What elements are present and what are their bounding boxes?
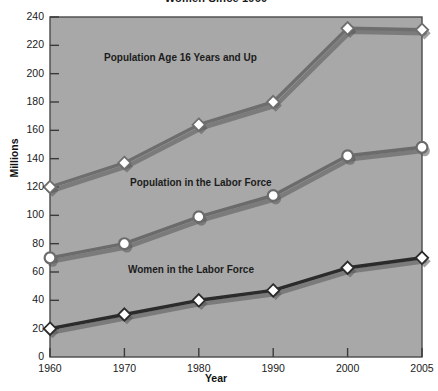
data-point-marker <box>119 238 130 249</box>
x-tick-label: 1980 <box>175 362 223 374</box>
y-tick-label: 80 <box>10 237 44 249</box>
chart-title: Women Since 1960 <box>0 0 432 4</box>
y-tick-label: 100 <box>10 208 44 220</box>
y-tick-label: 160 <box>10 123 44 135</box>
y-tick-label: 140 <box>10 152 44 164</box>
y-tick-label: 60 <box>10 265 44 277</box>
y-tick-label: 200 <box>10 67 44 79</box>
x-tick-label: 2005 <box>398 362 438 374</box>
data-point-marker <box>417 142 428 153</box>
data-point-marker <box>342 150 353 161</box>
data-point-marker <box>268 190 279 201</box>
x-tick-label: 2000 <box>324 362 372 374</box>
data-point-marker <box>45 252 56 263</box>
y-tick-label: 240 <box>10 10 44 22</box>
y-tick-label: 220 <box>10 38 44 50</box>
series-label: Population Age 16 Years and Up <box>104 52 257 63</box>
y-tick-label: 180 <box>10 95 44 107</box>
series-label: Population in the Labor Force <box>130 177 272 188</box>
y-tick-label: 120 <box>10 180 44 192</box>
data-point-marker <box>193 211 204 222</box>
y-tick-label: 40 <box>10 293 44 305</box>
x-tick-label: 1960 <box>26 362 74 374</box>
x-tick-label: 1990 <box>249 362 297 374</box>
y-tick-label: 0 <box>10 350 44 362</box>
series-label: Women in the Labor Force <box>128 264 254 275</box>
x-tick-label: 1970 <box>100 362 148 374</box>
y-tick-label: 20 <box>10 322 44 334</box>
